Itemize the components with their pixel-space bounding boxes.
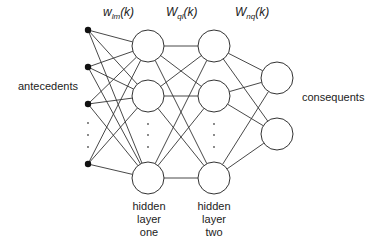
hidden2-ellipsis-dot [213, 134, 215, 136]
consequents-label: consequents [302, 91, 364, 103]
label-line: one [119, 226, 179, 239]
edge-input-hidden1 [88, 60, 141, 164]
hidden1-ellipsis-dot [147, 123, 149, 125]
edge-hidden2-output [227, 143, 264, 169]
antecedents-label: antecedents [18, 80, 78, 92]
input-node [85, 161, 91, 167]
label-line: layer [119, 213, 179, 226]
hidden2-node [198, 30, 230, 62]
output-node [261, 62, 293, 94]
input-ellipsis-dot [87, 122, 89, 124]
input-ellipsis-dot [87, 134, 89, 136]
input-node [85, 101, 91, 107]
hidden1-node [132, 80, 164, 112]
hidden2-node [198, 80, 230, 112]
weight-label-hidden2-output: Wnq(k) [235, 5, 269, 21]
edge-input-hidden1 [88, 164, 132, 174]
weight-label-input-hidden1: wlm(k) [103, 5, 134, 21]
hidden1-ellipsis-dot [147, 146, 149, 148]
hidden2-ellipsis-dot [213, 146, 215, 148]
edge-hidden2-output [228, 53, 262, 71]
edge-input-hidden1 [88, 51, 133, 67]
label-line: hidden [119, 200, 179, 213]
edge-hidden2-output [223, 59, 267, 121]
edge-hidden2-output [223, 92, 269, 165]
hidden-layer-one-label: hidden layer one [119, 200, 179, 239]
input-node [85, 64, 91, 70]
hidden1-node [132, 30, 164, 62]
hidden2-node [198, 162, 230, 194]
hidden-layer-two-label: hidden layer two [184, 200, 244, 239]
output-node [261, 118, 293, 150]
weight-label-hidden1-hidden2: Wql(k) [166, 5, 198, 21]
label-line: layer [184, 213, 244, 226]
hidden1-ellipsis-dot [147, 134, 149, 136]
edge-input-hidden1 [88, 30, 137, 84]
edge-input-hidden1 [88, 98, 132, 104]
input-ellipsis-dot [87, 146, 89, 148]
label-line: two [184, 226, 244, 239]
hidden1-node [132, 162, 164, 194]
hidden2-ellipsis-dot [213, 123, 215, 125]
edge-input-hidden1 [88, 30, 133, 42]
input-node [85, 27, 91, 33]
label-line: hidden [184, 200, 244, 213]
